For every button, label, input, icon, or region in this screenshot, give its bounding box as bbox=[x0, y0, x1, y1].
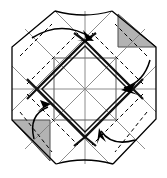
crease-pattern-svg bbox=[0, 0, 167, 178]
origami-figure-root: Origami crease pattern — octagonal base … bbox=[0, 0, 167, 178]
